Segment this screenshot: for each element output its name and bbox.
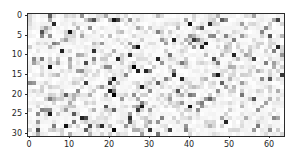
x-tick-label: 20 (104, 140, 114, 149)
x-tick-mark (29, 136, 30, 138)
x-tick-mark (109, 136, 110, 138)
y-tick-label: 5 (4, 30, 22, 39)
x-tick-mark (69, 136, 70, 138)
y-tick-mark (25, 94, 27, 95)
x-tick-label: 60 (264, 140, 274, 149)
y-tick-mark (25, 74, 27, 75)
y-tick-label: 10 (4, 50, 22, 59)
x-tick-mark (189, 136, 190, 138)
x-tick-label: 0 (26, 140, 31, 149)
heatmap-image (28, 14, 284, 136)
x-tick-mark (269, 136, 270, 138)
y-tick-mark (25, 15, 27, 16)
y-tick-label: 15 (4, 70, 22, 79)
x-tick-label: 30 (144, 140, 154, 149)
x-tick-label: 10 (64, 140, 74, 149)
y-tick-mark (25, 113, 27, 114)
y-tick-mark (25, 54, 27, 55)
y-tick-label: 20 (4, 89, 22, 98)
y-tick-label: 30 (4, 129, 22, 138)
y-tick-mark (25, 133, 27, 134)
y-tick-label: 0 (4, 10, 22, 19)
x-tick-mark (149, 136, 150, 138)
x-tick-label: 50 (224, 140, 234, 149)
y-tick-label: 25 (4, 109, 22, 118)
heatmap-plot-area[interactable] (27, 13, 285, 137)
x-tick-mark (229, 136, 230, 138)
y-tick-mark (25, 35, 27, 36)
x-tick-label: 40 (184, 140, 194, 149)
figure: 051015202530 0102030405060 (0, 0, 292, 166)
